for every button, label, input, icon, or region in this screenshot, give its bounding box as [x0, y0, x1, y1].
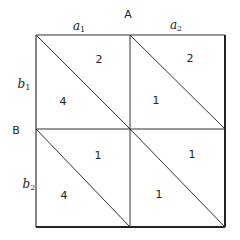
- payoff-grid: [0, 0, 240, 240]
- cell-b1-a1-lower-value: 4: [60, 96, 67, 107]
- level-a1-label: a1: [73, 20, 85, 34]
- cell-diagonal-b2-a2: [130, 129, 225, 227]
- cell-b2-a1-upper-value: 1: [95, 150, 102, 161]
- factor-a-label: A: [124, 9, 132, 20]
- level-a2-label: a2: [170, 19, 182, 33]
- cell-diagonal-b2-a1: [36, 129, 130, 227]
- cell-b2-a2-upper-value: 1: [189, 149, 196, 160]
- cell-b2-a2-lower-value: 1: [156, 189, 163, 200]
- cell-b1-a2-upper-value: 2: [187, 53, 194, 64]
- factor-b-label: B: [12, 125, 20, 136]
- cell-b1-a2-lower-value: 1: [153, 95, 160, 106]
- level-b1-label: b1: [18, 78, 31, 92]
- level-b2-label: b2: [23, 178, 36, 192]
- cell-diagonal-b1-a2: [130, 35, 225, 129]
- cell-b1-a1-upper-value: 2: [96, 54, 103, 65]
- cell-diagonal-b1-a1: [36, 35, 130, 129]
- cell-b2-a1-lower-value: 4: [61, 190, 68, 201]
